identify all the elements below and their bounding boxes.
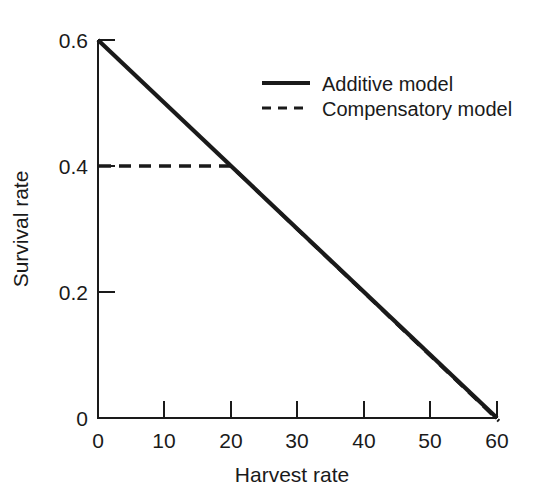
chart-figure: 0.6 0.4 0.2 0 0 10 20 30 40 50 60 Harves… xyxy=(0,0,538,493)
survival-vs-harvest-chart: 0.6 0.4 0.2 0 0 10 20 30 40 50 60 Harves… xyxy=(0,0,538,493)
y-tick-label-0.4: 0.4 xyxy=(59,155,89,178)
x-tick-label-40: 40 xyxy=(352,429,375,452)
x-tick-label-0: 0 xyxy=(92,429,104,452)
y-tick-label-0.6: 0.6 xyxy=(59,29,88,52)
legend-label-additive-model: Additive model xyxy=(322,73,453,95)
y-axis-title: Survival rate xyxy=(9,171,32,288)
x-tick-label-50: 50 xyxy=(418,429,441,452)
y-tick-label-0.2: 0.2 xyxy=(59,281,88,304)
legend-label-compensatory-model: Compensatory model xyxy=(322,98,512,120)
x-tick-label-20: 20 xyxy=(219,429,242,452)
x-tick-label-60: 60 xyxy=(485,429,508,452)
x-tick-label-10: 10 xyxy=(152,429,175,452)
x-axis-title: Harvest rate xyxy=(235,463,349,486)
y-tick-label-0: 0 xyxy=(76,407,88,430)
x-tick-label-30: 30 xyxy=(285,429,308,452)
